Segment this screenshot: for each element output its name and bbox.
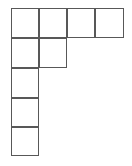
- grid-cell-r1c3: [67, 8, 95, 38]
- grid-cell-r2c1: [11, 38, 39, 68]
- grid-cell-r4c1: [11, 98, 39, 127]
- grid-cell-r1c2: [39, 8, 67, 38]
- grid-cell-r1c1: [11, 8, 39, 38]
- grid-cell-r5c1: [11, 127, 39, 156]
- grid-cell-r1c4: [95, 8, 124, 38]
- polyomino-diagram: [0, 0, 132, 166]
- grid-cell-r2c2: [39, 38, 67, 68]
- grid-cell-r3c1: [11, 68, 39, 98]
